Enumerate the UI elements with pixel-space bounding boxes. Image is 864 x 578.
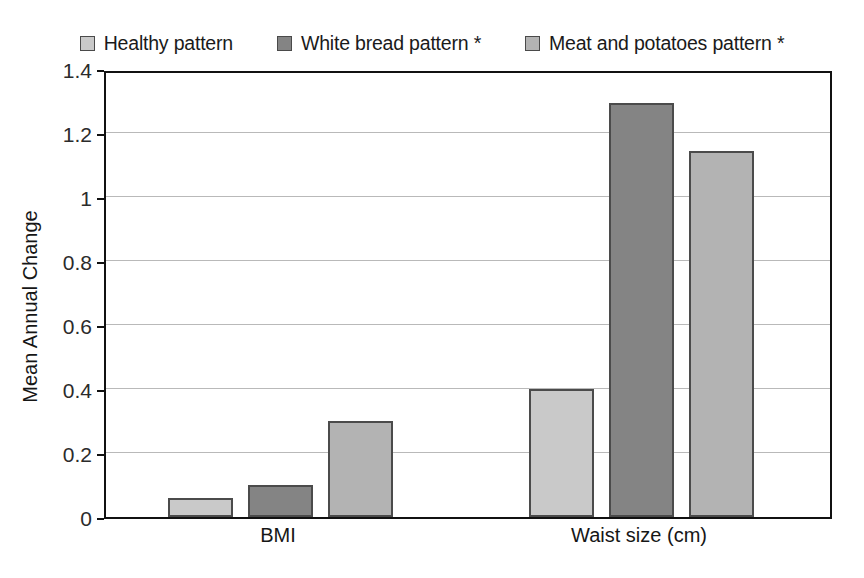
bar [328, 421, 393, 517]
legend-swatch-icon [277, 36, 292, 51]
y-tick-label: 0.4 [63, 379, 92, 403]
y-tick-label: 0.2 [63, 443, 92, 467]
bar [529, 389, 594, 517]
y-tick-mark [97, 518, 104, 520]
bar [248, 485, 313, 517]
x-axis: BMIWaist size (cm) [104, 524, 832, 560]
legend-swatch-icon [80, 36, 95, 51]
y-tick-label: 1.4 [63, 59, 92, 83]
y-tick-mark [97, 262, 104, 264]
y-tick-label: 0.8 [63, 251, 92, 275]
bars-layer [106, 73, 830, 517]
y-tick-label: 0 [80, 507, 92, 531]
x-tick-label: Waist size (cm) [571, 524, 707, 547]
y-tick-label: 0.6 [63, 315, 92, 339]
y-tick-mark [97, 70, 104, 72]
chart-legend: Healthy pattern White bread pattern * Me… [0, 28, 864, 58]
y-tick-label: 1.2 [63, 123, 92, 147]
legend-item-white-bread-pattern: White bread pattern * [277, 32, 481, 55]
legend-item-healthy-pattern: Healthy pattern [80, 32, 233, 55]
bar [689, 151, 754, 517]
plot-area [104, 71, 832, 519]
y-axis: 00.20.40.60.811.21.4 [0, 71, 104, 519]
bar [168, 498, 233, 517]
y-tick-mark [97, 198, 104, 200]
legend-label: Meat and potatoes pattern * [549, 32, 784, 55]
legend-item-meat-and-potatoes-pattern: Meat and potatoes pattern * [525, 32, 784, 55]
y-tick-mark [97, 134, 104, 136]
bar-chart: Healthy pattern White bread pattern * Me… [0, 0, 864, 578]
bar [609, 103, 674, 517]
y-tick-mark [97, 454, 104, 456]
y-tick-label: 1 [80, 187, 92, 211]
y-tick-mark [97, 326, 104, 328]
y-tick-mark [97, 390, 104, 392]
legend-label: White bread pattern * [301, 32, 481, 55]
legend-swatch-icon [525, 36, 540, 51]
y-axis-title: Mean Annual Change [19, 147, 42, 467]
legend-label: Healthy pattern [104, 32, 233, 55]
x-tick-label: BMI [260, 524, 296, 547]
